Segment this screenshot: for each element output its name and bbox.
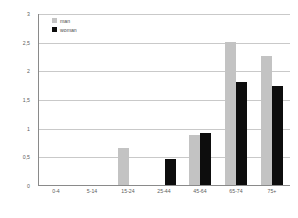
bar-group bbox=[147, 14, 183, 185]
y-axis-tick-label: 2,5 bbox=[23, 40, 30, 46]
y-axis-tick-label: 0,5 bbox=[23, 154, 30, 160]
bar-man bbox=[225, 42, 236, 185]
plot-area bbox=[38, 14, 290, 186]
bar-woman bbox=[200, 133, 211, 185]
bar-man bbox=[189, 135, 200, 185]
y-axis-tick-label: 1 bbox=[27, 126, 30, 132]
bar-man bbox=[261, 56, 272, 185]
y-axis-tick-label: 1,5 bbox=[23, 97, 30, 103]
x-axis-tick-label: 45-64 bbox=[182, 188, 218, 194]
bar-woman bbox=[236, 82, 247, 185]
legend-label: woman bbox=[60, 27, 77, 33]
legend-label: man bbox=[60, 18, 70, 24]
y-axis-labels: 00,511,522,53 bbox=[0, 14, 36, 186]
bar-group bbox=[39, 14, 75, 185]
y-axis-tick-label: 3 bbox=[27, 11, 30, 17]
bar-group bbox=[218, 14, 254, 185]
x-axis-tick-label: 75+ bbox=[254, 188, 290, 194]
legend-item: woman bbox=[52, 26, 77, 33]
bar-group bbox=[75, 14, 111, 185]
x-axis-tick-label: 15-24 bbox=[110, 188, 146, 194]
legend-swatch-icon bbox=[52, 18, 57, 23]
x-axis-labels: 0-45-1415-2425-4445-6465-7475+ bbox=[38, 188, 290, 194]
bar-woman bbox=[272, 86, 283, 185]
legend-item: man bbox=[52, 17, 77, 24]
bar-groups bbox=[39, 14, 290, 185]
bar-group bbox=[111, 14, 147, 185]
x-axis-tick-label: 5-14 bbox=[74, 188, 110, 194]
legend-swatch-icon bbox=[52, 27, 57, 32]
bar-chart: 00,511,522,53 0-45-1415-2425-4445-6465-7… bbox=[0, 0, 298, 218]
legend: manwoman bbox=[52, 17, 77, 33]
y-axis-tick-label: 0 bbox=[27, 183, 30, 189]
bar-woman bbox=[165, 159, 176, 185]
bar-group bbox=[182, 14, 218, 185]
bar-group bbox=[254, 14, 290, 185]
x-axis-tick-label: 65-74 bbox=[218, 188, 254, 194]
bar-man bbox=[118, 148, 129, 185]
x-axis-tick-label: 25-44 bbox=[146, 188, 182, 194]
x-axis-tick-label: 0-4 bbox=[38, 188, 74, 194]
y-axis-tick-label: 2 bbox=[27, 68, 30, 74]
